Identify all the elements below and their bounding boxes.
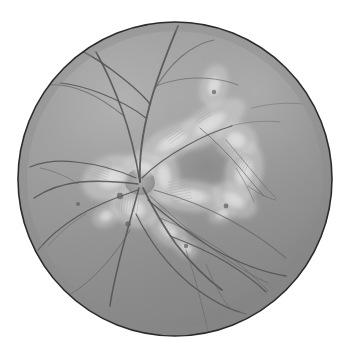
- fundus-field: [18, 22, 332, 336]
- fundus-image-viewer: [0, 0, 349, 354]
- fundus-photograph: [0, 0, 349, 354]
